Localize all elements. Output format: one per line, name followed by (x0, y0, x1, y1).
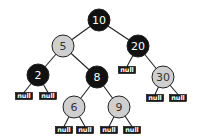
null-label: null (148, 94, 162, 102)
node-value: 9 (116, 101, 123, 114)
tree-node-20: 20 (127, 35, 149, 57)
null-leaf: null (101, 126, 118, 134)
node-value: 10 (92, 14, 106, 27)
null-label: null (41, 92, 55, 100)
tree-node-9: 9 (108, 96, 130, 118)
null-leaf: null (40, 92, 57, 100)
tree-node-2: 2 (27, 64, 49, 86)
null-leaf: null (124, 126, 141, 134)
node-value: 30 (156, 71, 170, 84)
null-label: null (17, 92, 31, 100)
null-leaf: null (56, 126, 73, 134)
null-leaf: null (170, 94, 187, 102)
null-leaf: null (16, 92, 33, 100)
null-label: null (57, 126, 71, 134)
tree-node-6: 6 (63, 96, 85, 118)
red-black-tree-diagram: nullnullnullnullnullnullnullnullnull 105… (0, 0, 199, 140)
null-label: null (125, 126, 139, 134)
null-label: null (102, 126, 116, 134)
node-value: 5 (60, 40, 67, 53)
tree-node-30: 30 (152, 66, 174, 88)
tree-node-8: 8 (86, 66, 108, 88)
null-label: null (78, 126, 92, 134)
null-leaf: null (77, 126, 94, 134)
tree-node-5: 5 (52, 35, 74, 57)
tree-svg: nullnullnullnullnullnullnullnullnull 105… (0, 0, 199, 140)
null-leaf: null (147, 94, 164, 102)
node-value: 2 (35, 69, 42, 82)
node-value: 8 (94, 71, 101, 84)
null-leaf: null (119, 66, 136, 74)
node-value: 20 (131, 40, 145, 53)
tree-node-10: 10 (88, 9, 110, 31)
null-label: null (171, 94, 185, 102)
node-value: 6 (71, 101, 78, 114)
null-label: null (120, 66, 134, 74)
